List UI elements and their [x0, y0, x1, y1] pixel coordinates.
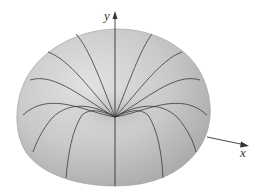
surface-diagram: y x — [0, 0, 258, 195]
x-axis — [207, 137, 243, 145]
y-axis-label: y — [102, 8, 110, 23]
y-axis-arrowhead-icon — [113, 11, 118, 19]
x-axis-label: x — [239, 145, 246, 160]
